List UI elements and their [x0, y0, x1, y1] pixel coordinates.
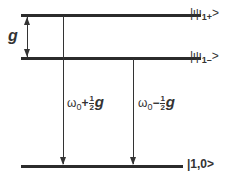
- splitting-arrow-up-head: [24, 17, 30, 25]
- upper-level-line: [21, 14, 201, 17]
- transition-label-middle: ω0−12g: [138, 93, 175, 112]
- transition-arrow-middle-head: [130, 157, 136, 165]
- transition-label-upper: ω0+12g: [67, 93, 104, 112]
- splitting-label: g: [8, 27, 18, 45]
- middle-level-line: [21, 57, 201, 60]
- transition-arrow-upper-head: [60, 157, 66, 165]
- ground-level-label: |1,0>: [187, 157, 214, 171]
- middle-level-label: |ψ1–>: [190, 49, 219, 65]
- splitting-arrow-down-head: [24, 49, 30, 57]
- transition-arrow-middle: [133, 59, 134, 164]
- upper-level-label: |ψ1+>: [190, 6, 219, 22]
- ground-level-line: [21, 165, 183, 168]
- transition-arrow-upper: [63, 16, 64, 164]
